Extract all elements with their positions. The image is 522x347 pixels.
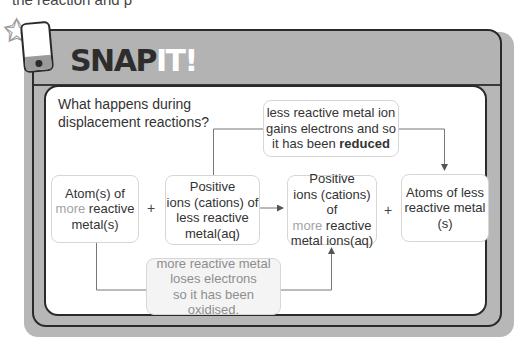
reactant-ions-box: Positive ions (cations) of less reactive…	[165, 175, 260, 245]
reactant1-line2-rest: reactive	[85, 201, 134, 216]
reactant1-line2: more reactive	[56, 201, 135, 217]
reactant1-line3: metal(s)	[56, 217, 135, 233]
reactant2-line4: metal(aq)	[167, 226, 259, 242]
connector-reduced-in	[214, 129, 264, 178]
oxidised-line3: so it has been oxidised.	[147, 287, 280, 318]
plus-sign-2: +	[384, 202, 392, 218]
oxidised-line2: loses electrons	[147, 271, 280, 287]
connector-oxidised-in	[97, 242, 148, 290]
product1-line4: metal ions(aq)	[288, 233, 376, 249]
product2-line1: Atoms of less	[405, 185, 486, 201]
product1-line2: ions (cations) of	[288, 187, 376, 218]
more-highlight: more	[293, 218, 323, 233]
reactant2-line3: less reactive	[167, 210, 259, 226]
reduced-line1: less reactive metal ion	[266, 105, 396, 121]
reactant-atoms-box: Atom(s) of more reactive metal(s)	[51, 175, 139, 243]
reduced-note-box: less reactive metal ion gains electrons …	[263, 100, 399, 157]
more-highlight: more	[56, 201, 86, 216]
oxidised-note-box: more reactive metal loses electrons so i…	[146, 258, 281, 315]
product2-line3: (s)	[405, 216, 486, 232]
reactant2-line2: ions (cations) of	[167, 195, 259, 211]
product-atoms-box: Atoms of less reactive metal (s)	[401, 174, 489, 242]
connector-reduced-out	[398, 129, 445, 170]
product1-line1: Positive	[288, 171, 376, 187]
reduced-line3: it has been reduced	[266, 136, 396, 152]
product1-line3: more reactive	[288, 218, 376, 234]
oxidised-line1: more reactive metal	[147, 256, 280, 272]
reactant1-line1: Atom(s) of	[56, 186, 135, 202]
reduced-keyword: reduced	[339, 136, 390, 151]
product1-line3-rest: reactive	[322, 218, 371, 233]
product-ions-box: Positive ions (cations) of more reactive…	[287, 175, 377, 245]
reduced-line3-pre: it has been	[272, 136, 339, 151]
reduced-line2: gains electrons and so	[266, 121, 396, 137]
product2-line2: reactive metal	[405, 200, 486, 216]
plus-sign-1: +	[147, 200, 155, 216]
connector-oxidised-out	[280, 248, 332, 290]
reactant2-line1: Positive	[167, 179, 259, 195]
